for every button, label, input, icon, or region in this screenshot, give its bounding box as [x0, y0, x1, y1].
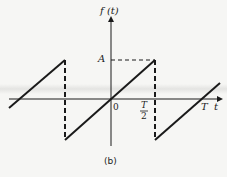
x-axis-label: t — [214, 101, 218, 112]
sawtooth-figure: f (t) A 0 T 2 T t (b) — [0, 0, 227, 177]
amplitude-label: A — [98, 53, 105, 64]
figure-caption: (b) — [104, 156, 117, 166]
sawtooth-wave — [9, 60, 220, 140]
half-period-numerator: T — [141, 100, 147, 110]
sawtooth-plot — [0, 0, 227, 177]
half-period-denominator: 2 — [141, 111, 147, 121]
y-axis-label: f (t) — [100, 5, 119, 16]
period-label: T — [201, 101, 208, 112]
origin-label: 0 — [113, 102, 119, 112]
